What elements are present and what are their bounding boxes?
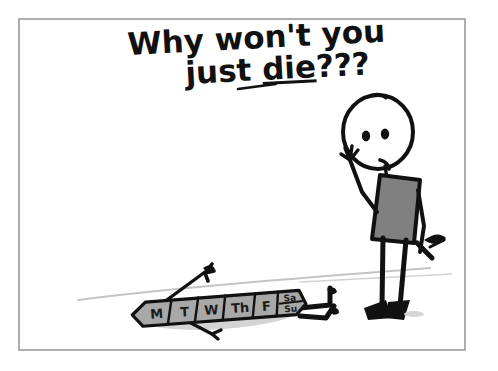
calendar-cell-label-friday: F <box>261 298 271 314</box>
calendar-cell-label-thursday: Th <box>231 300 250 316</box>
calendar-cell-label-monday: M <box>150 306 164 322</box>
calendar-cell-label-sunday: Su <box>284 303 298 314</box>
calendar-cell-label-wednesday: W <box>204 302 219 318</box>
figure-eye-left <box>362 131 370 142</box>
caption-just-word: just <box>182 51 263 91</box>
cartoon-scene: Why won't you just die??? <box>0 0 498 371</box>
caption-question-marks: ??? <box>315 45 371 84</box>
caption-die-word: die <box>261 48 317 87</box>
figure-leg-left <box>382 238 383 306</box>
calendar-cell-label-saturday: Sa <box>283 293 296 304</box>
figure-foot-shadow <box>404 311 424 317</box>
figure-eye-right <box>381 129 389 140</box>
calendar-cell-label-tuesday: T <box>180 304 190 320</box>
figure-torso <box>372 175 420 243</box>
cartoon-drawing: Why won't you just die??? <box>0 0 498 371</box>
